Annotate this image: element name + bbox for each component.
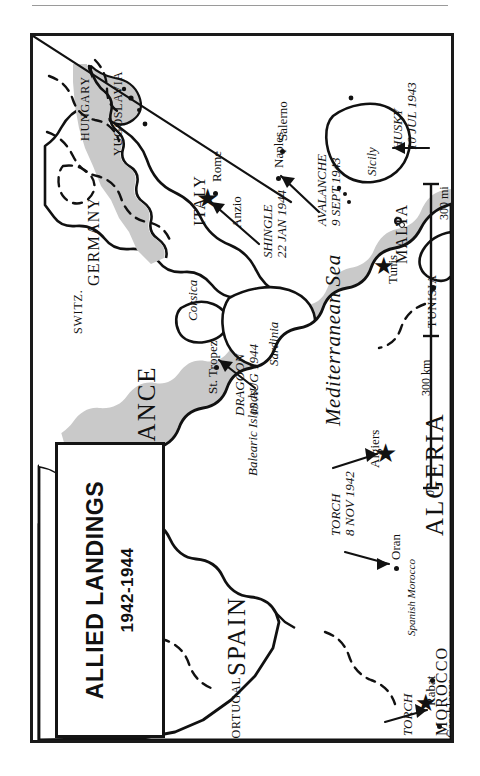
- city-dot-casablanca: [437, 724, 442, 729]
- map-title-rotated: ALLIED LANDINGS 1942-1944: [82, 481, 138, 700]
- city-dot-st-tropez: [214, 365, 219, 370]
- city-dot-naples: [276, 176, 281, 181]
- landing-star-tunis: ★: [373, 254, 395, 278]
- map-frame: ★ ★ ★ ★ GERMANY HUNGARY YUGOSLAVIA SWITZ…: [30, 33, 454, 743]
- page-rule-divider: [32, 5, 448, 6]
- map-title-inner: ALLIED LANDINGS 1942-1944: [58, 445, 162, 735]
- map-page: ★ ★ ★ ★ GERMANY HUNGARY YUGOSLAVIA SWITZ…: [0, 0, 480, 776]
- landing-star-algiers: ★: [374, 441, 397, 467]
- page-subtitle: 1942-1944: [118, 481, 138, 700]
- city-dot-oran: [394, 566, 399, 571]
- city-dot-rabat: [430, 678, 435, 683]
- city-dot-malta: [399, 222, 405, 228]
- page-title: ALLIED LANDINGS: [82, 481, 109, 700]
- city-dot-salerno: [280, 149, 285, 154]
- landing-star-casablanca: ★: [415, 691, 437, 715]
- landing-star-anzio: ★: [196, 186, 219, 212]
- map-canvas: ★ ★ ★ ★ GERMANY HUNGARY YUGOSLAVIA SWITZ…: [33, 36, 451, 740]
- map-title-box: ALLIED LANDINGS 1942-1944: [55, 442, 165, 738]
